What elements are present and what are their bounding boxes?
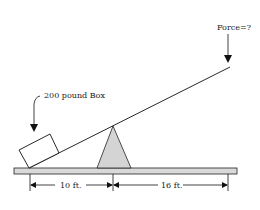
box-label-arrow bbox=[34, 96, 40, 130]
ground-plank bbox=[14, 168, 237, 174]
right-distance-label: 16 ft. bbox=[161, 181, 182, 190]
lever-diagram: 200 pound Box Force=? 10 ft. 16 ft. bbox=[0, 0, 260, 210]
box bbox=[19, 134, 59, 168]
left-distance-label: 10 ft. bbox=[60, 181, 81, 190]
force-label: Force=? bbox=[217, 23, 251, 32]
box-label: 200 pound Box bbox=[44, 91, 105, 100]
fulcrum bbox=[97, 126, 131, 168]
